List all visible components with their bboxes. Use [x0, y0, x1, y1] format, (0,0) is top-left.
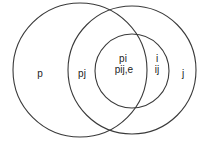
label-pij-e: pij,e — [115, 64, 134, 75]
label-p: p — [37, 68, 43, 79]
label-pj: pj — [78, 68, 86, 79]
label-pi: pi — [119, 53, 127, 64]
venn-diagram: p pj pi pij,e i ij j — [0, 0, 209, 146]
label-ij: ij — [155, 64, 159, 75]
label-j: j — [181, 68, 184, 79]
label-i: i — [156, 53, 158, 64]
